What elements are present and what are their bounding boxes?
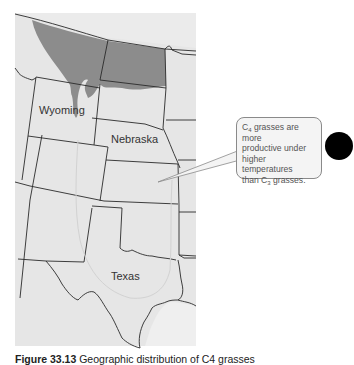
state-label-wyoming: Wyoming	[39, 104, 85, 116]
caption-text: Geographic distribution of C4 grasses	[76, 353, 255, 365]
state-label-texas: Texas	[111, 270, 140, 282]
callout-line-3: higher temperatures	[242, 154, 316, 175]
callout-line-1: C4 grasses are more	[242, 122, 316, 143]
callout-line-4: than C3 grasses.	[242, 175, 316, 186]
caption-label: Figure 33.13	[15, 353, 76, 365]
state-label-nebraska: Nebraska	[111, 133, 159, 145]
callout-line-2: productive under	[242, 143, 316, 154]
callout-bubble: C4 grasses are more productive under hig…	[236, 117, 322, 179]
black-circle-marker	[325, 132, 353, 160]
figure-caption: Figure 33.13 Geographic distribution of …	[15, 353, 255, 365]
